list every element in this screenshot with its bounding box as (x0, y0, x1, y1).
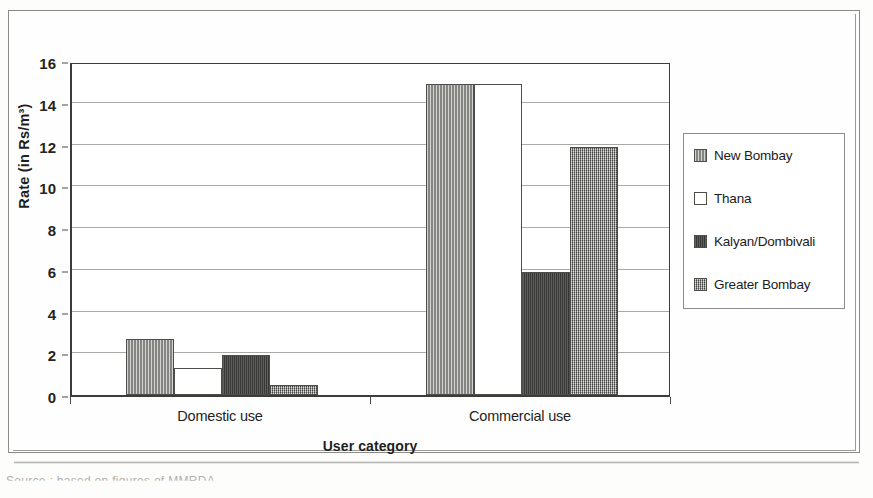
y-tick-label: 2 (0, 347, 56, 364)
bar (126, 339, 174, 395)
bar (570, 147, 618, 395)
legend-item[interactable]: Thana (694, 191, 751, 206)
x-axis-title: User category (70, 438, 670, 454)
y-tick-label: 12 (0, 138, 56, 155)
y-tick-mark (62, 313, 68, 314)
x-tick-mark (70, 397, 71, 404)
bar (522, 272, 570, 395)
y-tick-label: 6 (0, 263, 56, 280)
legend-label: Thana (714, 191, 751, 206)
legend-label: Greater Bombay (714, 277, 810, 292)
legend-item[interactable]: Kalyan/Dombivali (694, 234, 815, 249)
plot-area (70, 63, 670, 397)
legend-swatch-icon (694, 278, 707, 291)
legend-swatch-icon (694, 192, 707, 205)
scan-artifact-line (14, 461, 859, 464)
y-tick-label: 8 (0, 222, 56, 239)
legend-swatch-icon (694, 149, 707, 162)
y-tick-mark (62, 355, 68, 356)
bar (174, 368, 222, 395)
x-tick-mark (370, 397, 371, 404)
x-axis-category-label: Commercial use (430, 408, 610, 424)
y-tick-label: 0 (0, 389, 56, 406)
y-tick-mark (62, 104, 68, 105)
bar-chart: Rate (in Rs/m³) 0246810121416 Domestic u… (0, 0, 873, 498)
y-axis-title: Rate (in Rs/m³) (16, 36, 32, 276)
gridline (72, 102, 669, 103)
y-tick-label: 10 (0, 180, 56, 197)
gridline (72, 144, 669, 145)
y-tick-mark (62, 397, 68, 398)
legend-item[interactable]: New Bombay (694, 148, 792, 163)
y-tick-mark (62, 230, 68, 231)
x-tick-mark (670, 397, 671, 404)
x-axis-category-label: Domestic use (130, 408, 310, 424)
y-tick-label: 4 (0, 305, 56, 322)
bar (270, 385, 318, 395)
bar (426, 84, 474, 395)
y-tick-label: 14 (0, 96, 56, 113)
y-tick-mark (62, 63, 68, 64)
y-tick-label: 16 (0, 55, 56, 72)
legend-swatch-icon (694, 235, 707, 248)
y-tick-mark (62, 188, 68, 189)
y-tick-mark (62, 146, 68, 147)
legend-label: Kalyan/Dombivali (714, 234, 815, 249)
bar (474, 84, 522, 395)
bar (222, 355, 270, 395)
scanned-page: Rate (in Rs/m³) 0246810121416 Domestic u… (0, 0, 873, 498)
legend: New BombayThanaKalyan/DombivaliGreater B… (683, 133, 845, 309)
legend-item[interactable]: Greater Bombay (694, 277, 810, 292)
legend-label: New Bombay (714, 148, 792, 163)
y-tick-mark (62, 271, 68, 272)
